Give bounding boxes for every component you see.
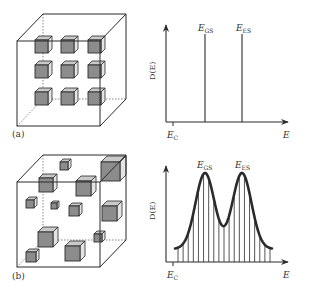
panel-a-cube: (a) bbox=[12, 14, 126, 139]
panel-b-plot: D(E) E EC EGS EES bbox=[148, 160, 290, 281]
quantum-dot-cube bbox=[26, 197, 37, 208]
quantum-dot-cube bbox=[35, 61, 52, 78]
quantum-dot-cube bbox=[88, 61, 105, 78]
cube-b-quantum-dots bbox=[26, 156, 126, 262]
quantum-dot-cube bbox=[76, 176, 96, 196]
quantum-dot-cube bbox=[51, 201, 59, 209]
ees-label-b: EES bbox=[234, 160, 250, 171]
panel-a-label: (a) bbox=[12, 129, 24, 139]
ec-label-a: EC bbox=[166, 130, 179, 141]
quantum-dot-cube bbox=[60, 159, 71, 170]
quantum-dot-cube bbox=[65, 241, 85, 261]
quantum-dot-cube bbox=[61, 61, 78, 78]
y-axis-label-a: D(E) bbox=[148, 62, 157, 81]
figure-canvas: (a) D(E) E EC EGS EES (b) bbox=[0, 0, 317, 288]
quantum-dot-cube bbox=[26, 249, 39, 262]
quantum-dot-cube bbox=[61, 88, 78, 105]
quantum-dot-cube bbox=[69, 203, 82, 216]
quantum-dot-cube bbox=[61, 36, 78, 53]
quantum-dot-cube bbox=[88, 88, 105, 105]
panel-a-plot: D(E) E EC EGS EES bbox=[148, 23, 290, 141]
egs-label-a: EGS bbox=[197, 23, 213, 34]
quantum-dot-cube bbox=[39, 174, 57, 192]
y-axis-label-b: D(E) bbox=[148, 202, 157, 221]
ec-label-b: EC bbox=[166, 270, 179, 281]
ees-label-a: EES bbox=[235, 23, 251, 34]
x-axis-label-b: E bbox=[282, 270, 290, 280]
quantum-dot-cube bbox=[35, 36, 52, 53]
quantum-dot-cube bbox=[35, 88, 52, 105]
egs-label-b: EGS bbox=[196, 160, 212, 171]
panel-b-cube: (b) bbox=[12, 155, 126, 281]
x-axis-label-a: E bbox=[282, 130, 290, 140]
panel-b-label: (b) bbox=[12, 271, 25, 281]
quantum-dot-cube bbox=[38, 227, 58, 247]
cube-a-quantum-dots bbox=[35, 36, 105, 105]
dos-envelope-curve bbox=[175, 173, 272, 249]
quantum-dot-cube bbox=[102, 201, 122, 221]
